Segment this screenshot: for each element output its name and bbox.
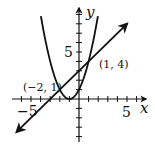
point-label-a: (−2, 1): [23, 81, 62, 94]
x-tick-label-neg5: −5: [17, 103, 38, 119]
x-axis-label: x: [140, 99, 149, 117]
point-label-b: (1, 4): [99, 58, 129, 71]
graph: y x −5 5 5 (−2, 1) (1, 4): [0, 0, 155, 167]
y-tick-label-5: 5: [64, 44, 73, 60]
x-tick-label-5: 5: [122, 104, 131, 120]
y-axis-label: y: [85, 3, 95, 21]
